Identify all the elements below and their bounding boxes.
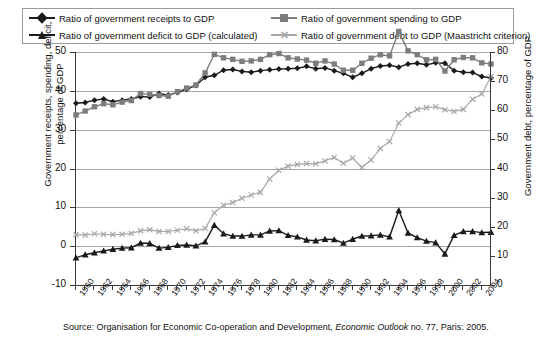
data-point-marker <box>368 56 373 61</box>
y-axis-left-tick-label: 30 <box>26 123 66 134</box>
data-point-marker <box>184 85 189 90</box>
x-axis-tick <box>333 286 334 290</box>
data-point-marker <box>129 98 134 103</box>
data-point-marker <box>396 120 401 125</box>
data-point-marker <box>424 57 429 62</box>
data-point-marker <box>212 52 217 57</box>
data-point-marker <box>442 68 447 73</box>
x-axis-tick <box>186 286 187 290</box>
data-point-marker <box>460 69 466 75</box>
data-point-marker <box>378 146 383 151</box>
data-point-marker <box>230 66 236 72</box>
data-point-marker <box>341 68 346 73</box>
data-point-marker <box>322 65 328 71</box>
data-point-marker <box>396 64 402 70</box>
x-axis-tick <box>158 286 159 290</box>
x-axis-tick <box>481 286 482 290</box>
y-axis-right-tick-label: 20 <box>497 220 537 231</box>
x-axis-tick <box>241 286 242 290</box>
x-axis-tick <box>232 286 233 290</box>
data-point-marker <box>147 92 152 97</box>
data-point-marker <box>239 59 244 64</box>
data-point-marker <box>166 94 171 99</box>
y-axis-right-tick-label: 60 <box>497 103 537 114</box>
x-axis-tick <box>130 286 131 290</box>
y-axis-left-tick-label: 50 <box>26 45 66 56</box>
data-point-marker <box>359 61 364 66</box>
y-axis-right-tick-label: 70 <box>497 74 537 85</box>
series-layer <box>76 52 491 285</box>
data-point-marker <box>285 66 291 72</box>
x-axis-tick <box>361 286 362 290</box>
x-axis-tick <box>296 286 297 290</box>
x-axis-tick <box>342 286 343 290</box>
data-point-marker <box>387 139 392 144</box>
y-axis-right-spine <box>490 52 491 286</box>
data-point-marker <box>423 62 429 68</box>
data-point-marker <box>73 112 78 117</box>
x-axis-tick <box>425 286 426 290</box>
data-point-marker <box>313 66 319 72</box>
data-point-marker <box>221 55 226 60</box>
data-point-marker <box>470 55 475 60</box>
legend-label-spending: Ratio of government spending to GDP <box>301 13 462 24</box>
data-point-marker <box>267 176 272 181</box>
data-point-marker <box>248 69 254 75</box>
data-point-marker <box>331 68 337 74</box>
data-point-marker <box>350 74 356 80</box>
data-point-marker <box>387 53 392 58</box>
data-point-marker <box>396 29 401 34</box>
data-point-marker <box>461 55 466 60</box>
plot-area <box>75 52 491 286</box>
legend-label-debt: Ratio of government debt to GDP (Maastri… <box>301 30 531 41</box>
data-point-marker <box>313 61 318 66</box>
x-axis-tick <box>121 286 122 290</box>
data-point-marker <box>202 70 207 75</box>
data-point-marker <box>414 234 421 240</box>
series-1 <box>73 60 494 106</box>
data-point-marker <box>221 67 227 73</box>
data-point-marker <box>211 222 218 228</box>
x-axis-tick <box>407 286 408 290</box>
data-point-marker <box>414 60 420 66</box>
data-point-marker <box>322 58 327 63</box>
x-axis-tick <box>315 286 316 290</box>
data-point-marker <box>276 168 281 173</box>
square-marker-icon <box>271 12 297 24</box>
data-point-marker <box>369 157 374 162</box>
x-axis-tick <box>167 286 168 290</box>
data-point-marker <box>101 101 106 106</box>
y-axis-left-tick-label: 40 <box>26 84 66 95</box>
data-point-marker <box>405 230 412 236</box>
data-point-marker <box>470 97 475 102</box>
y-axis-right-tick-label: 40 <box>497 162 537 173</box>
y-axis-left-tick <box>70 52 75 53</box>
series-4 <box>73 74 493 237</box>
x-axis-tick <box>149 286 150 290</box>
data-point-marker <box>91 97 97 103</box>
data-point-marker <box>119 99 124 104</box>
x-axis-tick <box>140 286 141 290</box>
y-axis-left-tick-label: -10 <box>26 278 66 289</box>
data-point-marker <box>294 65 300 71</box>
data-point-marker <box>193 82 198 87</box>
data-point-marker <box>405 48 410 53</box>
y-axis-right-tick-label: 10 <box>497 249 537 260</box>
data-point-marker <box>230 57 235 62</box>
data-point-marker <box>378 52 383 57</box>
legend-label-receipts: Ratio of government receipts to GDP <box>59 13 214 24</box>
data-point-marker <box>138 91 143 96</box>
data-point-marker <box>175 89 180 94</box>
data-point-marker <box>267 67 273 73</box>
x-axis-tick <box>389 286 390 290</box>
data-point-marker <box>304 63 310 69</box>
y-axis-left-tick-label: 20 <box>26 162 66 173</box>
data-point-marker <box>92 104 97 109</box>
data-point-marker <box>479 73 485 79</box>
data-point-marker <box>359 70 365 76</box>
y-axis-left-title: Government receipts, spending, deficit, … <box>42 4 66 204</box>
series-3 <box>73 207 495 260</box>
y-axis-left-tick <box>70 246 75 247</box>
data-point-marker <box>212 210 217 215</box>
x-axis-tick <box>112 286 113 290</box>
